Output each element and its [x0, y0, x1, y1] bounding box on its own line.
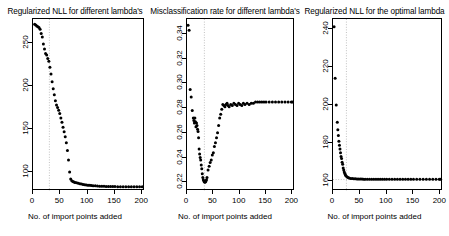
data-point	[274, 100, 277, 103]
x-tick-label: 150	[258, 196, 271, 205]
data-point	[54, 99, 57, 102]
data-point	[189, 88, 192, 91]
data-point	[418, 178, 421, 181]
x-tick-label: 150	[107, 196, 120, 205]
panel-misclassification-rate: Misclassification rate for different lam…	[150, 0, 300, 236]
x-tick-mark	[265, 190, 266, 194]
x-tick-label: 50	[208, 196, 217, 205]
data-point	[335, 104, 338, 107]
x-tick-label: 0	[184, 196, 188, 205]
data-point	[388, 178, 391, 181]
data-point	[399, 178, 402, 181]
data-point	[240, 104, 243, 107]
data-point	[337, 140, 340, 143]
x-tick-mark	[439, 190, 440, 194]
y-tick-label: 0.26	[175, 124, 184, 140]
x-tick-label: 150	[406, 196, 419, 205]
data-point	[55, 104, 58, 107]
x-tick-label: 100	[232, 196, 245, 205]
data-point	[198, 147, 201, 150]
data-point	[65, 141, 68, 144]
data-point	[205, 178, 208, 181]
data-point	[141, 185, 144, 188]
y-tick-label: 160	[321, 174, 330, 187]
data-point	[45, 54, 48, 57]
data-point	[435, 178, 438, 181]
data-point	[407, 178, 410, 181]
data-point	[396, 178, 399, 181]
data-point	[66, 149, 69, 152]
x-tick-label: 100	[379, 196, 392, 205]
panel-regularized-nll-lambdas: Regularized NLL for different lambda's N…	[0, 0, 150, 236]
data-point	[265, 100, 268, 103]
y-tick-label: 180	[321, 136, 330, 149]
data-point	[268, 100, 271, 103]
x-tick-label: 0	[330, 196, 334, 205]
data-point	[439, 178, 442, 181]
data-point	[214, 141, 217, 144]
y-tick-label: 0.22	[175, 174, 184, 190]
data-point	[338, 144, 341, 147]
data-point	[195, 121, 198, 124]
y-tick-label: 200	[321, 97, 330, 110]
data-point	[53, 93, 56, 96]
data-point	[138, 185, 141, 188]
data-point	[48, 66, 51, 69]
data-point	[188, 29, 191, 32]
y-tick-label: 240	[321, 21, 330, 34]
data-point	[113, 185, 116, 188]
x-tick-mark	[87, 190, 88, 194]
data-point	[59, 116, 62, 119]
x-tick-mark	[32, 190, 33, 194]
data-point	[210, 159, 213, 162]
data-point	[206, 176, 209, 179]
data-point	[200, 164, 203, 167]
data-point	[339, 151, 342, 154]
y-tick-label: 250	[21, 35, 30, 48]
y-tick-label: 0.32	[175, 50, 184, 66]
data-point	[190, 95, 193, 98]
data-point	[196, 128, 199, 131]
data-point	[191, 109, 194, 112]
data-point	[133, 185, 136, 188]
data-point	[401, 178, 404, 181]
panel-1-plot-area	[32, 18, 144, 190]
panel-2-plot-area	[186, 18, 294, 190]
data-point	[42, 42, 45, 45]
data-point	[338, 147, 341, 150]
data-point	[41, 36, 44, 39]
data-point	[46, 57, 49, 60]
data-point	[280, 100, 283, 103]
x-tick-label: 200	[135, 196, 148, 205]
panel-3-xlabel: No. of import points added	[300, 212, 449, 221]
data-point	[412, 178, 415, 181]
data-point	[425, 178, 428, 181]
data-point	[291, 100, 294, 103]
panel-3-data-layer	[333, 19, 443, 191]
x-tick-mark	[386, 190, 387, 194]
data-point	[67, 159, 70, 162]
data-point	[40, 32, 43, 35]
figure-container: Regularized NLL for different lambda's N…	[0, 0, 449, 236]
x-tick-label: 50	[55, 196, 64, 205]
data-point	[271, 100, 274, 103]
data-point	[201, 176, 204, 179]
data-point	[68, 171, 71, 174]
data-point	[218, 116, 221, 119]
y-tick-label: 0.24	[175, 149, 184, 165]
x-tick-mark	[212, 190, 213, 194]
data-point	[409, 178, 412, 181]
x-tick-label: 100	[80, 196, 93, 205]
y-tick-label: 0.30	[175, 75, 184, 91]
x-tick-mark	[59, 190, 60, 194]
x-tick-mark	[332, 190, 333, 194]
data-point	[333, 25, 336, 28]
data-point	[277, 100, 280, 103]
data-point	[200, 167, 203, 170]
x-tick-mark	[291, 190, 292, 194]
data-point	[198, 152, 201, 155]
panel-3-title: Regularized NLL for the optimal lambda	[300, 7, 449, 16]
y-tick-label: 200	[21, 78, 30, 91]
data-point	[385, 178, 388, 181]
data-point	[231, 104, 234, 107]
